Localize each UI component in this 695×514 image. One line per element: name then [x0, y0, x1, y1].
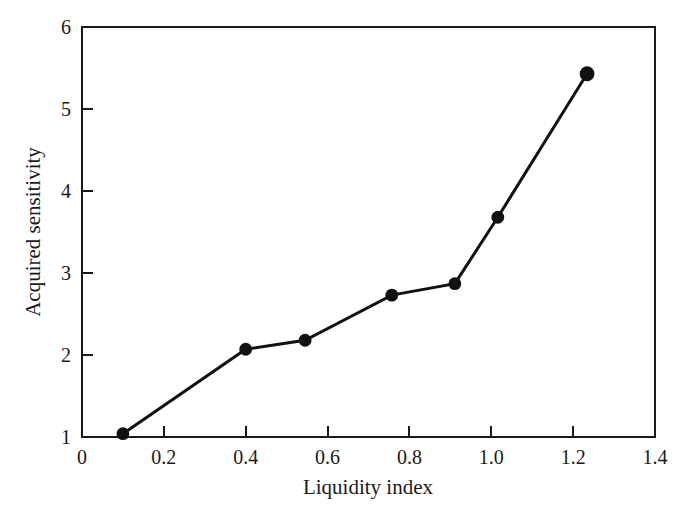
data-point-marker [491, 211, 504, 224]
y-tick-label: 5 [61, 98, 71, 120]
x-tick-label: 0.2 [151, 446, 176, 468]
data-point-marker [117, 427, 130, 440]
y-tick-label: 4 [61, 180, 71, 202]
x-tick-label: 0.4 [233, 446, 258, 468]
y-tick-label: 3 [61, 262, 71, 284]
figure-canvas: 00.20.40.60.81.01.21.4 123456 Liquidity … [0, 0, 695, 514]
data-point-marker [239, 343, 252, 356]
data-point-marker [385, 289, 398, 302]
y-tick-label: 6 [61, 16, 71, 38]
y-tick-label: 1 [61, 426, 71, 448]
x-tick-label: 1.2 [561, 446, 586, 468]
x-tick-label: 0 [77, 446, 87, 468]
data-point-marker [299, 334, 312, 347]
y-axis-title: Acquired sensitivity [21, 147, 45, 317]
y-tick-label: 2 [61, 344, 71, 366]
x-tick-label: 0.8 [397, 446, 422, 468]
data-point-marker [448, 277, 461, 290]
x-axis-title: Liquidity index [303, 475, 434, 499]
line-chart: 00.20.40.60.81.01.21.4 123456 Liquidity … [0, 0, 695, 514]
x-tick-label: 1.0 [479, 446, 504, 468]
x-tick-label: 1.4 [643, 446, 668, 468]
x-tick-label: 0.6 [315, 446, 340, 468]
data-point-marker [580, 66, 595, 81]
